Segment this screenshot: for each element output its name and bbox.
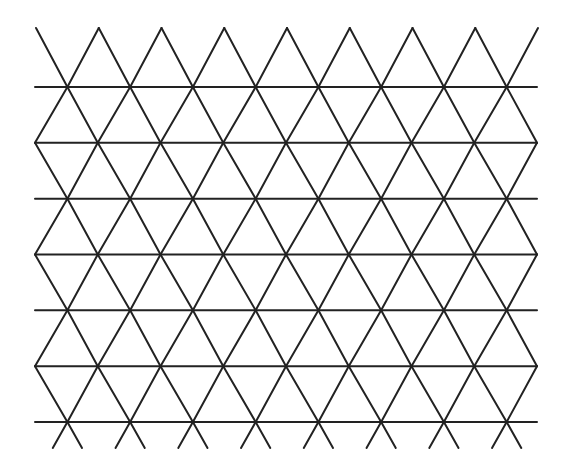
diagonal-grid-line (35, 143, 67, 199)
diagonal-grid-line (67, 87, 97, 143)
diagonal-grid-line (474, 310, 506, 366)
diagonal-grid-line (507, 310, 537, 366)
top-edge-line (507, 28, 538, 87)
diagonal-grid-line (67, 310, 97, 366)
diagonal-grid-line (474, 199, 506, 255)
diagonal-grid-line (381, 143, 411, 199)
diagonal-grid-line (349, 366, 381, 422)
diagonal-grid-line (35, 366, 67, 422)
bottom-edge-line (367, 422, 382, 448)
diagonal-grid-line (35, 199, 67, 255)
diagonal-grid-line (507, 366, 537, 422)
diagonal-grid-line (256, 199, 286, 255)
diagonal-grid-line (507, 255, 537, 311)
diagonal-grid-line (474, 255, 506, 311)
diagonal-grid-line (381, 199, 411, 255)
diagonal-grid-line (98, 199, 130, 255)
diagonal-grid-line (318, 143, 348, 199)
bottom-edge-line (444, 422, 459, 448)
diagonal-grid-line (507, 87, 537, 143)
diagonal-grid-line (286, 255, 318, 311)
diagonal-grid-line (256, 255, 286, 311)
diagonal-grid-line (98, 310, 130, 366)
diagonal-grid-line (35, 255, 67, 311)
top-edge-line (256, 28, 287, 87)
diagonal-grid-line (130, 310, 160, 366)
diagonal-grid-line (349, 310, 381, 366)
bottom-edge-line (53, 422, 68, 448)
diagonal-grid-line (256, 366, 286, 422)
diagonal-grid-line (412, 255, 444, 311)
diagonal-grid-line (98, 366, 130, 422)
diagonal-grid-line (286, 366, 318, 422)
diagonal-grid-line (286, 310, 318, 366)
diagonal-grid-line (193, 366, 223, 422)
diagonal-grid-line (474, 143, 506, 199)
bottom-edge-line (116, 422, 131, 448)
diagonal-grid-line (256, 310, 286, 366)
diagonal-grid-line (444, 366, 474, 422)
diagonal-grid-line (286, 143, 318, 199)
top-edge-line (444, 28, 475, 87)
diagonal-grid-line (318, 310, 348, 366)
diagonal-grid-line (130, 255, 160, 311)
bottom-edge-line (241, 422, 256, 448)
diagonal-grid-line (98, 143, 130, 199)
diagonal-grid-line (223, 366, 255, 422)
diagonal-grid-line (161, 199, 193, 255)
diagonal-grid-line (193, 255, 223, 311)
diagonal-grid-line (444, 87, 474, 143)
diagonal-grid-line (381, 366, 411, 422)
top-edge-line (381, 28, 412, 87)
diagonal-grid-line (349, 255, 381, 311)
diagonal-grid-line (35, 87, 67, 143)
diagonal-grid-line (412, 143, 444, 199)
diagonal-grid-line (381, 87, 411, 143)
diagonal-grid-line (349, 87, 381, 143)
diagonal-grid-line (193, 310, 223, 366)
diagonal-grid-line (98, 255, 130, 311)
diagonal-grid-line (444, 199, 474, 255)
diagonal-grid-line (130, 199, 160, 255)
diagonal-grid-line (67, 255, 97, 311)
top-edge-line (350, 28, 381, 87)
diagonal-grid-line (318, 199, 348, 255)
bottom-edge-line (193, 422, 208, 448)
diagonal-grid-line (223, 310, 255, 366)
bottom-edge-line (178, 422, 193, 448)
diagonal-grid-line (318, 366, 348, 422)
bottom-edge-line (492, 422, 507, 448)
diagonal-grid-line (381, 255, 411, 311)
diagonal-grid-line (223, 87, 255, 143)
diagonal-grid-line (161, 255, 193, 311)
diagonal-grid-line (256, 87, 286, 143)
top-edge-line (287, 28, 318, 87)
diagonal-grid-line (161, 366, 193, 422)
top-edge-line (99, 28, 130, 87)
diagonal-grid-line (193, 199, 223, 255)
diagonal-grid-line (256, 143, 286, 199)
bottom-edge-line (318, 422, 333, 448)
diagonal-grid-line (98, 87, 130, 143)
diagonal-grid-line (318, 87, 348, 143)
diagonal-grid-line (507, 143, 537, 199)
diagonal-grid-line (444, 143, 474, 199)
diagonal-grid-line (412, 199, 444, 255)
diagonal-grid-line (161, 87, 193, 143)
diagonal-grid-line (130, 143, 160, 199)
diagonal-grid-line (67, 199, 97, 255)
diagonal-grid-line (474, 366, 506, 422)
bottom-edge-line (507, 422, 522, 448)
diagonal-grid-line (444, 310, 474, 366)
diagonal-grid-line (223, 143, 255, 199)
diagonal-grid-line (223, 255, 255, 311)
diagonal-grid-line (286, 199, 318, 255)
diagonal-grid-line (130, 87, 160, 143)
triangle-tessellation (0, 0, 567, 471)
top-edge-line (318, 28, 349, 87)
diagonal-grid-line (130, 366, 160, 422)
top-edge-line (475, 28, 506, 87)
top-edge-line (162, 28, 193, 87)
top-edge-line (193, 28, 224, 87)
top-edge-line (130, 28, 161, 87)
